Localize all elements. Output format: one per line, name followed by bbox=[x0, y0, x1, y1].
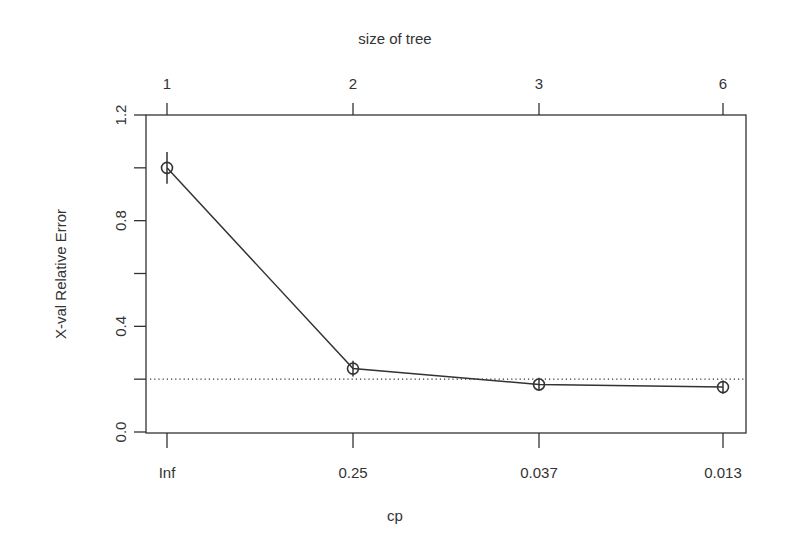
top-tick-label: 3 bbox=[535, 75, 543, 92]
x-axis-top: 1236 bbox=[163, 75, 727, 115]
series-line bbox=[162, 152, 729, 394]
y-axis-title: X-val Relative Error bbox=[52, 209, 69, 339]
x-tick-label: Inf bbox=[159, 464, 177, 481]
series-polyline bbox=[167, 168, 723, 387]
cp-plot: 0.00.40.81.2 Inf0.250.0370.013 1236 size… bbox=[0, 0, 785, 549]
y-tick-label: 0.4 bbox=[112, 316, 129, 337]
top-tick-label: 1 bbox=[163, 75, 171, 92]
x-tick-label: 0.25 bbox=[338, 464, 367, 481]
top-axis-title: size of tree bbox=[358, 30, 431, 47]
plot-area bbox=[146, 115, 746, 433]
plot-border bbox=[146, 115, 746, 433]
top-tick-label: 6 bbox=[719, 75, 727, 92]
y-tick-label: 0.0 bbox=[112, 422, 129, 443]
y-tick-label: 0.8 bbox=[112, 210, 129, 231]
y-axis: 0.00.40.81.2 bbox=[112, 105, 146, 443]
x-axis-bottom: Inf0.250.0370.013 bbox=[159, 433, 742, 481]
x-tick-label: 0.013 bbox=[704, 464, 742, 481]
x-axis-title: cp bbox=[387, 507, 403, 524]
y-tick-label: 1.2 bbox=[112, 105, 129, 126]
x-tick-label: 0.037 bbox=[520, 464, 558, 481]
top-tick-label: 2 bbox=[349, 75, 357, 92]
